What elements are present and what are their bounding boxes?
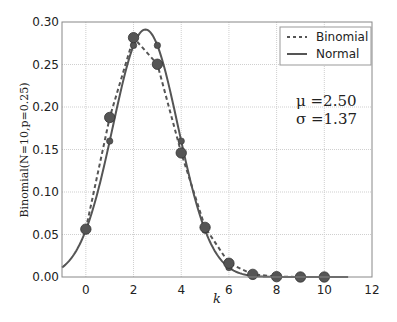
binomial-marker bbox=[128, 32, 138, 42]
x-tick-label: 0 bbox=[82, 283, 90, 297]
x-tick-label: 8 bbox=[273, 283, 281, 297]
y-axis-label: Binomial(N=10,p=0.25) bbox=[18, 82, 31, 217]
y-tick-label: 0.20 bbox=[32, 100, 59, 114]
normal-marker bbox=[106, 138, 112, 144]
binomial-normal-chart: 024681012 0.000.050.100.150.200.250.30 k… bbox=[0, 0, 397, 322]
x-tick-label: 4 bbox=[177, 283, 185, 297]
binomial-marker bbox=[104, 112, 114, 122]
x-tick-label: 6 bbox=[225, 283, 233, 297]
x-axis-label: k bbox=[213, 291, 221, 306]
normal-marker bbox=[178, 138, 184, 144]
binomial-marker bbox=[200, 222, 210, 232]
y-tick-label: 0.15 bbox=[32, 143, 59, 157]
legend: Binomial Normal bbox=[280, 27, 371, 65]
x-tick-label: 12 bbox=[364, 283, 379, 297]
legend-binomial-label: Binomial bbox=[316, 30, 368, 44]
y-tick-label: 0.05 bbox=[32, 228, 59, 242]
binomial-marker bbox=[224, 258, 234, 268]
binomial-marker bbox=[248, 269, 258, 279]
x-tick-label: 10 bbox=[317, 283, 332, 297]
y-tick-label: 0.30 bbox=[32, 15, 59, 29]
sigma-annotation: σ =1.37 bbox=[296, 110, 357, 128]
x-tick-label: 2 bbox=[130, 283, 138, 297]
binomial-marker bbox=[152, 59, 162, 69]
y-tick-label: 0.10 bbox=[32, 185, 59, 199]
mu-annotation: μ =2.50 bbox=[296, 92, 356, 110]
legend-normal-label: Normal bbox=[316, 47, 359, 61]
binomial-marker bbox=[176, 148, 186, 158]
binomial-marker bbox=[81, 224, 91, 234]
y-tick-label: 0.25 bbox=[32, 58, 59, 72]
y-tick-label: 0.00 bbox=[32, 270, 59, 284]
normal-marker bbox=[154, 42, 160, 48]
